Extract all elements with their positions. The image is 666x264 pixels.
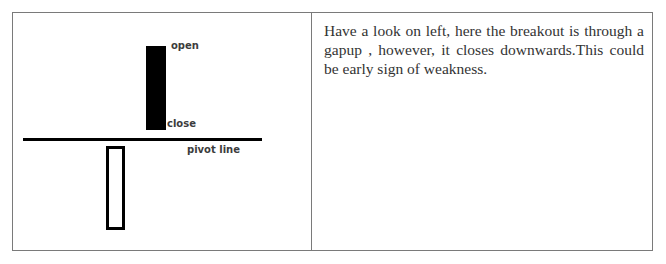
content-table: open close pivot line Have a look on lef… bbox=[12, 12, 653, 251]
description-cell: Have a look on left, here the breakout i… bbox=[312, 13, 652, 250]
bearish-candle bbox=[146, 46, 166, 130]
open-label: open bbox=[171, 40, 199, 51]
description-text: Have a look on left, here the breakout i… bbox=[324, 21, 644, 78]
close-label: close bbox=[167, 118, 196, 129]
pivot-line bbox=[23, 138, 262, 141]
diagram-cell: open close pivot line bbox=[13, 13, 311, 250]
hollow-candle bbox=[106, 146, 125, 230]
pivot-line-label: pivot line bbox=[187, 144, 240, 155]
